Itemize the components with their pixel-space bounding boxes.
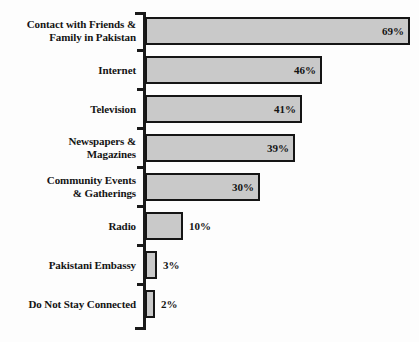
bar-container: 10% <box>145 212 183 240</box>
category-label-line-2: Family in Pakistan <box>0 31 136 44</box>
category-label-line-2: Magazines <box>0 148 136 161</box>
bar[interactable] <box>145 17 410 45</box>
bar-value-label: 3% <box>163 259 180 271</box>
bar-chart: Contact with Friends &Family in Pakistan… <box>0 0 419 342</box>
category-label: Do Not Stay Connected <box>0 298 136 311</box>
category-label-line-1: Newspapers & <box>0 135 136 148</box>
bar[interactable] <box>145 251 157 279</box>
category-label: Internet <box>0 64 136 77</box>
category-label-line-1: Do Not Stay Connected <box>0 298 136 311</box>
bar-value-label: 69% <box>382 25 404 37</box>
bar-container: 30% <box>145 173 260 201</box>
bar-row[interactable]: Do Not Stay Connected2% <box>0 290 419 318</box>
bar-row[interactable]: Radio10% <box>0 212 419 240</box>
category-label: Community Events& Gatherings <box>0 174 136 200</box>
category-label-line-1: Television <box>0 103 136 116</box>
axis-tick <box>137 166 144 169</box>
bar-container: 39% <box>145 134 295 162</box>
bar-value-label: 10% <box>189 220 211 232</box>
axis-cap-top <box>135 12 143 15</box>
axis-tick <box>137 49 144 52</box>
axis-tick <box>137 244 144 247</box>
category-label-line-1: Contact with Friends & <box>0 18 136 31</box>
bar-row[interactable]: Community Events& Gatherings30% <box>0 173 419 201</box>
category-label: Pakistani Embassy <box>0 259 136 272</box>
category-label-line-2: & Gatherings <box>0 187 136 200</box>
bar-value-label: 41% <box>274 103 296 115</box>
category-label-line-1: Internet <box>0 64 136 77</box>
bar-container: 3% <box>145 251 157 279</box>
bar-row[interactable]: Pakistani Embassy3% <box>0 251 419 279</box>
bar-row[interactable]: Internet46% <box>0 56 419 84</box>
category-label: Contact with Friends &Family in Pakistan <box>0 18 136 44</box>
axis-tick <box>137 88 144 91</box>
bar-value-label: 30% <box>232 181 254 193</box>
bar-container: 69% <box>145 17 410 45</box>
axis-tick <box>137 127 144 130</box>
bar-container: 46% <box>145 56 322 84</box>
bar-container: 41% <box>145 95 302 123</box>
bar-value-label: 46% <box>294 64 316 76</box>
category-label-line-1: Community Events <box>0 174 136 187</box>
bar[interactable] <box>145 212 183 240</box>
category-label: Radio <box>0 220 136 233</box>
axis-cap-bottom <box>135 327 143 330</box>
bar-row[interactable]: Newspapers &Magazines39% <box>0 134 419 162</box>
bar-row[interactable]: Television41% <box>0 95 419 123</box>
bar[interactable] <box>145 290 155 318</box>
bar-container: 2% <box>145 290 155 318</box>
axis-tick <box>137 283 144 286</box>
category-label-line-1: Pakistani Embassy <box>0 259 136 272</box>
axis-tick <box>137 205 144 208</box>
bar-value-label: 39% <box>267 142 289 154</box>
category-label: Newspapers &Magazines <box>0 135 136 161</box>
category-label: Television <box>0 103 136 116</box>
bar-value-label: 2% <box>161 298 178 310</box>
category-label-line-1: Radio <box>0 220 136 233</box>
bar-row[interactable]: Contact with Friends &Family in Pakistan… <box>0 17 419 45</box>
